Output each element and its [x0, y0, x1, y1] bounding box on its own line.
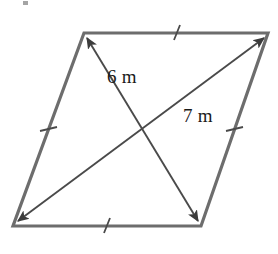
diagonal-7m-line: [18, 38, 264, 221]
diagonal-6m-label: 6 m: [107, 66, 137, 87]
parallelogram-diagram: 6 m 7 m: [0, 0, 278, 254]
geometry-figure: 6 m 7 m: [0, 0, 278, 254]
diagonal-7m-label: 7 m: [183, 105, 213, 126]
scan-artifact: [23, 1, 28, 5]
